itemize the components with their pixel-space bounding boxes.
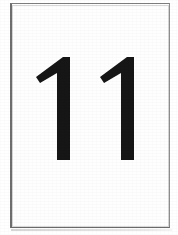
digit-one-first	[36, 57, 70, 160]
numeral-digit-group	[36, 57, 134, 160]
numeral-11-svg	[12, 5, 169, 227]
scanned-number-card: 11	[0, 0, 178, 235]
numeral-artwork	[12, 5, 169, 227]
digit-one-second	[100, 57, 134, 160]
